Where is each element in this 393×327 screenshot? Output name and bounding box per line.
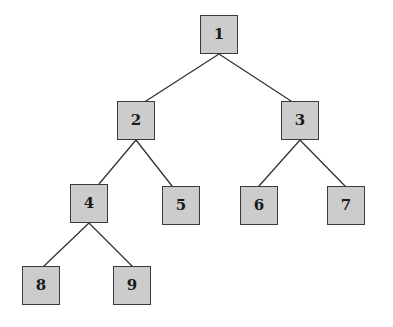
tree-edge-1-3 [219,54,291,101]
tree-node-label: 9 [127,278,137,293]
tree-node-label: 5 [176,198,186,213]
tree-node-4[interactable]: 4 [70,184,108,223]
tree-node-label: 7 [341,198,351,213]
tree-node-label: 8 [36,278,46,293]
tree-edge-4-8 [44,223,89,266]
tree-node-label: 1 [214,27,224,42]
tree-node-label: 3 [295,113,305,128]
tree-node-label: 6 [254,198,264,213]
tree-edge-4-9 [89,223,132,266]
tree-edge-3-6 [259,140,300,186]
tree-node-5[interactable]: 5 [162,186,200,225]
tree-edge-2-5 [136,140,172,186]
tree-node-label: 2 [131,113,141,128]
tree-node-3[interactable]: 3 [281,101,319,140]
tree-node-2[interactable]: 2 [117,101,155,140]
binary-tree-diagram: 123456789 [0,0,393,327]
tree-node-7[interactable]: 7 [327,186,365,225]
tree-edge-3-7 [300,140,345,186]
tree-node-8[interactable]: 8 [22,266,60,305]
tree-edge-1-2 [146,54,219,101]
tree-edge-2-4 [99,140,136,184]
tree-node-1[interactable]: 1 [200,15,238,54]
tree-node-label: 4 [84,196,94,211]
tree-node-9[interactable]: 9 [113,266,151,305]
tree-node-6[interactable]: 6 [240,186,278,225]
